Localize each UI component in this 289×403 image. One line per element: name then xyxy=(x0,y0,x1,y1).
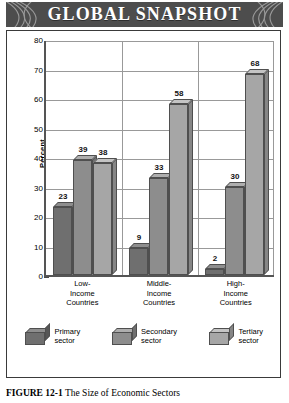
x-label-line: Countries xyxy=(197,298,274,308)
plot-canvas: 2339389335823068 xyxy=(44,41,274,277)
cube-face xyxy=(209,332,229,345)
figure-caption-text: The Size of Economic Sectors xyxy=(65,388,180,398)
x-label-0: Low-IncomeCountries xyxy=(44,277,121,313)
bar-value-label: 68 xyxy=(242,59,268,68)
cube-face xyxy=(45,323,50,341)
y-tick-80: 80 xyxy=(9,37,43,45)
bar-side xyxy=(188,99,193,275)
legend-label-line1: Tertiary xyxy=(238,327,263,336)
x-label-line: Income xyxy=(197,289,274,299)
y-axis-ticks: 01020304050607080 xyxy=(7,31,47,313)
bar-front xyxy=(225,187,244,276)
chart-legend: PrimarysectorSecondarysectorTertiarysect… xyxy=(7,317,282,355)
y-tick-40: 40 xyxy=(9,155,43,163)
legend-label: Primarysector xyxy=(54,327,80,345)
y-tick-20: 20 xyxy=(9,214,43,222)
x-label-line: Middle- xyxy=(121,279,198,289)
x-label-1: Middle-IncomeCountries xyxy=(121,277,198,313)
global-snapshot-banner: GLOBAL SNAPSHOT xyxy=(6,2,283,27)
bar-1-1[interactable]: 33 xyxy=(149,178,168,275)
bar-front xyxy=(169,104,188,275)
legend-item-0[interactable]: Primarysector xyxy=(7,317,99,355)
bar-front xyxy=(245,74,264,275)
y-tick-10: 10 xyxy=(9,244,43,252)
cube-face xyxy=(229,323,234,341)
x-label-line: Low- xyxy=(44,279,121,289)
bar-0-0[interactable]: 23 xyxy=(53,207,72,275)
y-tick-50: 50 xyxy=(9,126,43,134)
figure-frame: Percent 01020304050607080 23393893358230… xyxy=(6,30,281,378)
legend-label-line2: sector xyxy=(54,336,80,345)
bar-side xyxy=(264,69,269,275)
legend-label-line2: sector xyxy=(238,336,263,345)
bar-1-0[interactable]: 9 xyxy=(129,248,148,275)
x-label-line: Countries xyxy=(121,298,198,308)
legend-label: Tertiarysector xyxy=(238,327,263,345)
legend-swatch-cube-icon xyxy=(25,328,50,345)
y-tick-60: 60 xyxy=(9,96,43,104)
legend-swatch-cube-icon xyxy=(112,328,137,345)
bar-group-1: 93358 xyxy=(122,41,198,275)
cube-face xyxy=(25,332,45,345)
y-tick-0: 0 xyxy=(9,273,43,281)
legend-label: Secondarysector xyxy=(141,327,177,345)
bar-front xyxy=(205,269,224,275)
bar-value-label: 38 xyxy=(90,148,116,157)
figure-caption: FIGURE 12-1 The Size of Economic Sectors xyxy=(6,388,283,403)
y-tick-70: 70 xyxy=(9,67,43,75)
legend-label-line1: Secondary xyxy=(141,327,177,336)
legend-label-line1: Primary xyxy=(54,327,80,336)
x-axis-labels: Low-IncomeCountriesMiddle-IncomeCountrie… xyxy=(44,277,274,313)
bar-2-0[interactable]: 2 xyxy=(205,269,224,275)
bar-2-2[interactable]: 68 xyxy=(245,74,264,275)
bar-groups: 2339389335823068 xyxy=(46,41,274,275)
bar-0-1[interactable]: 39 xyxy=(73,160,92,275)
x-label-line: High- xyxy=(197,279,274,289)
bar-0-2[interactable]: 38 xyxy=(93,163,112,275)
legend-label-line2: sector xyxy=(141,336,177,345)
figure-number: FIGURE 12-1 xyxy=(6,388,63,398)
bar-side xyxy=(112,158,117,275)
bar-value-label: 58 xyxy=(166,89,192,98)
banner-title: GLOBAL SNAPSHOT xyxy=(6,2,283,27)
x-label-line: Countries xyxy=(44,298,121,308)
bar-1-2[interactable]: 58 xyxy=(169,104,188,275)
bar-front xyxy=(53,207,72,275)
bar-front xyxy=(73,160,92,275)
x-label-2: High-IncomeCountries xyxy=(197,277,274,313)
chart-plot-area: Percent 01020304050607080 23393893358230… xyxy=(7,31,282,313)
legend-item-2[interactable]: Tertiarysector xyxy=(190,317,282,355)
bar-front xyxy=(129,248,148,275)
bar-group-2: 23068 xyxy=(198,41,274,275)
legend-item-1[interactable]: Secondarysector xyxy=(99,317,191,355)
cube-face xyxy=(132,323,137,341)
bar-group-0: 233938 xyxy=(46,41,122,275)
bar-front xyxy=(93,163,112,275)
bar-front xyxy=(149,178,168,275)
y-tick-30: 30 xyxy=(9,185,43,193)
legend-swatch-cube-icon xyxy=(209,328,234,345)
x-label-line: Income xyxy=(121,289,198,299)
cube-face xyxy=(112,332,132,345)
x-label-line: Income xyxy=(44,289,121,299)
bar-2-1[interactable]: 30 xyxy=(225,187,244,276)
